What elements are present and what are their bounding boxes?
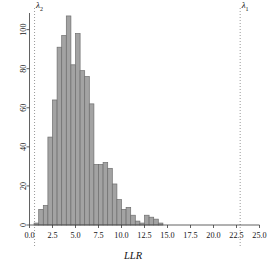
histogram-bar — [108, 168, 113, 225]
x-tick-label: 15.0 — [160, 231, 174, 240]
histogram-bar — [135, 221, 140, 225]
x-tick-label: 12.5 — [137, 231, 151, 240]
x-axis: 0.02.55.07.510.012.515.017.520.022.525.0 — [24, 225, 266, 240]
x-tick-label: 25.0 — [252, 231, 266, 240]
y-axis: 020406080100 — [19, 13, 30, 227]
x-axis-title: LLR — [123, 250, 143, 261]
x-tick-label: 5.0 — [70, 231, 80, 240]
lambda-2-label: λ2 — [35, 0, 43, 12]
histogram-bar — [71, 65, 76, 225]
y-tick-label: 100 — [19, 23, 28, 35]
histogram-bar — [76, 34, 81, 225]
histogram-bar — [145, 215, 150, 225]
bars-group — [34, 16, 163, 225]
lambda-1-label: λ1 — [241, 0, 249, 12]
histogram-bar — [62, 35, 67, 225]
histogram-bar — [43, 205, 48, 225]
histogram-bar — [126, 207, 131, 225]
y-tick-label: 40 — [19, 143, 28, 151]
x-tick-label: 22.5 — [229, 231, 243, 240]
histogram-bar — [57, 47, 62, 225]
histogram-bar — [66, 16, 71, 225]
y-tick-label: 60 — [19, 104, 28, 112]
y-tick-label: 0 — [19, 223, 28, 227]
histogram-bar — [85, 77, 90, 225]
histogram-bar — [149, 217, 154, 225]
histogram-bar — [131, 215, 136, 225]
annotation-labels: λ2λ1 — [35, 0, 249, 12]
histogram-figure: 020406080100 0.02.55.07.510.012.515.017.… — [0, 0, 267, 264]
histogram-bar — [117, 200, 122, 225]
histogram-bar — [48, 137, 53, 225]
x-tick-label: 17.5 — [183, 231, 197, 240]
x-tick-label: 0.0 — [24, 231, 34, 240]
y-tick-label: 20 — [19, 182, 28, 190]
x-tick-label: 7.5 — [93, 231, 103, 240]
x-tick-label: 20.0 — [206, 231, 220, 240]
y-tick-label: 80 — [19, 65, 28, 73]
histogram-bar — [154, 219, 159, 225]
histogram-bar — [39, 209, 44, 225]
histogram-bar — [53, 100, 58, 225]
x-tick-label: 2.5 — [47, 231, 57, 240]
histogram-bar — [122, 209, 127, 225]
x-tick-label: 10.0 — [114, 231, 128, 240]
histogram-bar — [94, 164, 99, 225]
histogram-bar — [103, 162, 108, 225]
histogram-bar — [89, 104, 94, 225]
histogram-bar — [99, 164, 104, 225]
histogram-bar — [112, 184, 117, 225]
llr-histogram-plot: 020406080100 0.02.55.07.510.012.515.017.… — [0, 0, 267, 264]
histogram-bar — [80, 71, 85, 225]
